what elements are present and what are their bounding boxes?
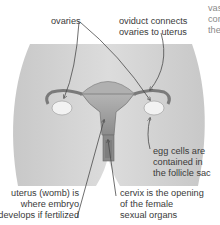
label-cervix-line3: sexual organs [120,210,204,221]
label-cervix: cervix is the opening of the female sexu… [120,188,204,221]
label-uterus-line2: where embryo [0,199,79,210]
ovary-left [52,101,72,115]
label-uterus: uterus (womb) is where embryo develops i… [0,188,79,221]
label-oviduct-line1: oviduct connects [119,16,187,27]
ovary-right [144,101,164,115]
label-uterus-line3: develops if fertilized [0,210,79,221]
label-egg-line3: the follicle sac [153,168,211,179]
label-egg-cells: egg cells are contained in the follicle … [153,146,211,179]
label-vagina-line3: the [208,25,220,36]
label-oviduct-line2: ovaries to uterus [119,27,187,38]
label-cervix-line2: of the female [120,199,204,210]
label-vagina-line1: vas [208,3,220,14]
label-uterus-line1: uterus (womb) is [0,188,79,199]
label-vagina-cropped: vas con the [208,3,220,36]
label-cervix-line1: cervix is the opening [120,188,204,199]
label-vagina-line2: con [208,14,220,25]
label-egg-line1: egg cells are [153,146,211,157]
label-egg-line2: contained in [153,157,211,168]
label-oviduct: oviduct connects ovaries to uterus [119,16,187,38]
label-ovaries: ovaries [51,16,81,27]
